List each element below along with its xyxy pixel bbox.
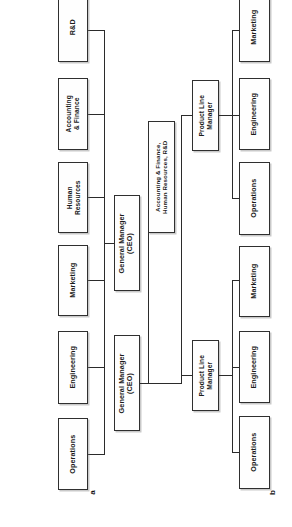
diagram-b-product-line-manager-bottom: Product LineManager bbox=[192, 340, 219, 411]
diagram-a-department-rd: R&D bbox=[58, 0, 88, 62]
diagram-b-staff-box: Accounting & Finance,Human Resources, R&… bbox=[148, 121, 175, 233]
diagram-b-bottom-leaf-engineering-label: Engineering bbox=[250, 346, 258, 389]
diagram-b-top-leaf-operations-label: Operations bbox=[250, 179, 258, 218]
diagram-b-top-leaf-marketing: Marketing bbox=[239, 0, 270, 62]
diagram-b-division-spine-feed bbox=[148, 383, 182, 384]
diagram-a-branch-hr bbox=[88, 197, 105, 198]
diagram-a-branch-engineering bbox=[88, 367, 105, 368]
diagram-b-division-spine bbox=[181, 115, 182, 383]
diagram-b-bottom-division-spine bbox=[232, 280, 233, 452]
diagram-b-bottom-leaf-operations-label: Operations bbox=[250, 433, 258, 472]
diagram-a-branch-rd bbox=[88, 30, 105, 31]
diagram-a-branch-accounting bbox=[88, 114, 105, 115]
diagram-b-trunk-stub bbox=[140, 383, 148, 384]
org-chart-figure: General Manager(CEO) R&D Accounting& Fin… bbox=[0, 0, 292, 527]
diagram-b-bottom-leaf-engineering: Engineering bbox=[239, 331, 270, 403]
diagram-b-bottom-leaf-marketing-label: Marketing bbox=[250, 264, 258, 299]
diagram-b-top-leaf-operations: Operations bbox=[239, 162, 270, 235]
diagram-b-staff-label: Accounting & Finance,Human Resources, R&… bbox=[154, 140, 169, 213]
diagram-a-caption: a bbox=[88, 490, 97, 494]
diagram-b-top-leaf-marketing-label: Marketing bbox=[250, 10, 258, 45]
diagram-a-branch-operations bbox=[88, 454, 105, 455]
diagram-b-top-branch-marketing bbox=[232, 30, 239, 31]
diagram-a-department-accounting-finance-label: Accounting& Finance bbox=[65, 95, 81, 132]
diagram-b-caption: b bbox=[268, 490, 277, 495]
diagram-b-product-line-manager-bottom-label: Product LineManager bbox=[198, 355, 214, 397]
diagram-b-bottom-leaf-operations: Operations bbox=[239, 416, 270, 489]
diagram-a-department-operations-label: Operations bbox=[69, 435, 77, 474]
diagram-a-ceo-label: General Manager(CEO) bbox=[119, 213, 136, 273]
diagram-b-bottom-leaf-marketing: Marketing bbox=[239, 246, 270, 317]
diagram-b-product-line-manager-top: Product LineManager bbox=[192, 80, 219, 151]
diagram-a-department-human-resources: HumanResources bbox=[58, 162, 88, 233]
diagram-b-product-line-manager-top-label: Product LineManager bbox=[198, 95, 214, 137]
diagram-b-top-division-spine bbox=[232, 30, 233, 198]
diagram-b-top-leaf-engineering: Engineering bbox=[239, 78, 270, 150]
diagram-b-top-branch-engineering bbox=[232, 115, 239, 116]
diagram-a-spine bbox=[104, 30, 105, 454]
diagram-b-top-branch-operations bbox=[232, 198, 239, 199]
diagram-b-plm-top-stub bbox=[219, 115, 232, 116]
diagram-a-department-rd-label: R&D bbox=[69, 19, 77, 35]
diagram-b-bottom-branch-engineering bbox=[232, 367, 239, 368]
diagram-b-top-leaf-engineering-label: Engineering bbox=[250, 93, 258, 136]
diagram-a-department-accounting-finance: Accounting& Finance bbox=[58, 78, 88, 150]
diagram-a-department-operations: Operations bbox=[58, 418, 88, 490]
diagram-b-plm-bottom-stub bbox=[219, 375, 232, 376]
diagram-a-department-engineering: Engineering bbox=[58, 331, 88, 404]
diagram-b-ceo-label: General Manager(CEO) bbox=[119, 353, 136, 413]
diagram-b-ceo-box: General Manager(CEO) bbox=[114, 335, 140, 431]
diagram-a-department-human-resources-label: HumanResources bbox=[65, 180, 81, 215]
diagram-a-trunk-stub bbox=[104, 243, 115, 244]
diagram-a-branch-marketing bbox=[88, 280, 105, 281]
diagram-a-department-marketing-label: Marketing bbox=[69, 263, 77, 298]
diagram-a-department-engineering-label: Engineering bbox=[69, 346, 77, 389]
diagram-b-bottom-branch-operations bbox=[232, 452, 239, 453]
diagram-a-ceo-box: General Manager(CEO) bbox=[114, 195, 140, 291]
diagram-b-bottom-branch-marketing bbox=[232, 280, 239, 281]
diagram-a-department-marketing: Marketing bbox=[58, 245, 88, 316]
